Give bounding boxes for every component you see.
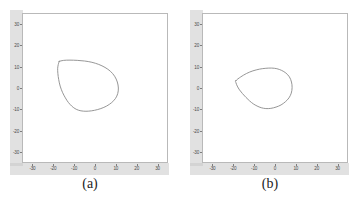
- x-tick-label: -10: [251, 166, 257, 171]
- x-tick-mark: [74, 164, 75, 166]
- x-tick-label: 10: [113, 166, 118, 171]
- x-tick-label: -20: [230, 166, 236, 171]
- x-tick-mark: [158, 164, 159, 166]
- x-tick-label: -30: [209, 166, 215, 171]
- x-tick-labels-b: -30-20-100102030: [202, 164, 348, 176]
- x-tick-label: -30: [29, 166, 35, 171]
- y-tick-mark: [200, 152, 202, 153]
- y-tick-label: 0: [17, 86, 19, 91]
- x-tick-mark: [116, 164, 117, 166]
- caption-a: (a): [0, 176, 180, 192]
- x-tick-label: 30: [155, 166, 160, 171]
- y-tick-mark: [20, 67, 22, 68]
- x-tick-mark: [317, 164, 318, 166]
- x-tick-mark: [32, 164, 33, 166]
- x-tick-mark: [254, 164, 255, 166]
- y-tick-mark: [200, 67, 202, 68]
- x-tick-label: 20: [134, 166, 139, 171]
- y-tick-label: -30: [193, 150, 199, 155]
- y-tick-mark: [200, 24, 202, 25]
- x-tick-mark: [296, 164, 297, 166]
- x-tick-label: 30: [335, 166, 340, 171]
- y-tick-label: -10: [193, 107, 199, 112]
- caption-b: (b): [180, 176, 360, 192]
- x-tick-label: -10: [71, 166, 77, 171]
- x-tick-label: 0: [94, 166, 96, 171]
- y-tick-label: -20: [193, 128, 199, 133]
- y-tick-mark: [200, 131, 202, 132]
- y-tick-label: -30: [13, 150, 19, 155]
- x-tick-labels-a: -30-20-100102030: [22, 164, 168, 176]
- y-tick-mark: [20, 24, 22, 25]
- y-tick-label: 20: [194, 43, 199, 48]
- y-tick-labels-b: 3020100-10-20-30: [180, 13, 202, 163]
- y-tick-mark: [20, 45, 22, 46]
- y-tick-label: 10: [14, 64, 19, 69]
- y-tick-label: 30: [194, 21, 199, 26]
- figure-container: 3020100-10-20-30 -30-20-100102030 (a) 30…: [0, 0, 360, 203]
- x-tick-mark: [95, 164, 96, 166]
- panel-b: 3020100-10-20-30 -30-20-100102030 (b): [180, 0, 360, 203]
- y-tick-labels-a: 3020100-10-20-30: [0, 13, 22, 163]
- plot-curve-b: [202, 13, 348, 163]
- y-tick-mark: [20, 152, 22, 153]
- y-tick-label: -10: [13, 107, 19, 112]
- y-tick-mark: [20, 109, 22, 110]
- x-tick-mark: [212, 164, 213, 166]
- y-tick-label: 0: [197, 86, 199, 91]
- x-tick-mark: [53, 164, 54, 166]
- x-tick-mark: [275, 164, 276, 166]
- y-tick-mark: [200, 88, 202, 89]
- panel-a: 3020100-10-20-30 -30-20-100102030 (a): [0, 0, 180, 203]
- plot-curve-a: [22, 13, 168, 163]
- x-tick-label: 10: [293, 166, 298, 171]
- y-tick-label: -20: [13, 128, 19, 133]
- y-tick-mark: [200, 109, 202, 110]
- y-tick-label: 30: [14, 21, 19, 26]
- x-tick-label: -20: [50, 166, 56, 171]
- x-tick-mark: [137, 164, 138, 166]
- y-tick-mark: [20, 88, 22, 89]
- x-tick-label: 20: [314, 166, 319, 171]
- x-tick-label: 0: [274, 166, 276, 171]
- y-tick-label: 10: [194, 64, 199, 69]
- x-tick-mark: [338, 164, 339, 166]
- y-tick-mark: [20, 131, 22, 132]
- y-tick-mark: [200, 45, 202, 46]
- y-tick-label: 20: [14, 43, 19, 48]
- x-tick-mark: [233, 164, 234, 166]
